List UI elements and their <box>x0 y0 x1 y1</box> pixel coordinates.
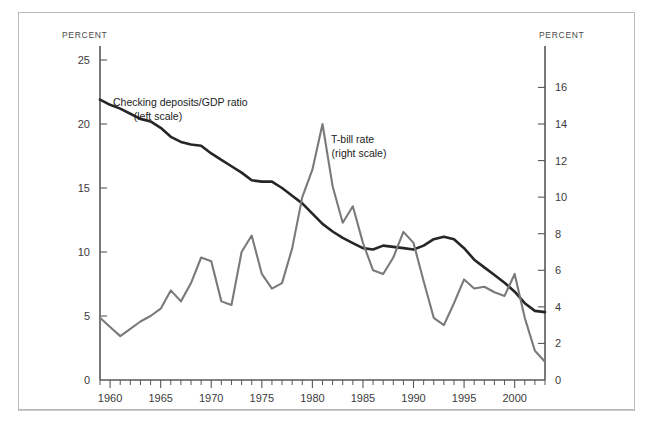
left-axis-tick-label: 20 <box>78 118 90 130</box>
right-axis-tick-label: 0 <box>555 374 561 386</box>
series-line-2 <box>100 124 545 362</box>
line-chart-svg: 0510152025PERCENT 0246810121416PERCENT 1… <box>0 0 653 427</box>
right-axis-tick-label: 16 <box>555 81 567 93</box>
x-axis-tick-label: 1975 <box>250 392 274 404</box>
chart-plot-area: 0510152025PERCENT 0246810121416PERCENT 1… <box>0 0 653 427</box>
tbill-series-annotation: T-bill rate <box>331 133 374 145</box>
tbill-series-scale-note: (right scale) <box>332 147 387 159</box>
deposits-series-annotation: Checking deposits/GDP ratio <box>113 96 248 108</box>
left-axis: 0510152025PERCENT <box>62 30 108 386</box>
x-axis-tick-label: 1980 <box>300 392 324 404</box>
left-axis-tick-label: 15 <box>78 182 90 194</box>
x-axis-tick-label: 2000 <box>502 392 526 404</box>
x-axis: 196019651970197519801985199019952000 <box>98 380 545 404</box>
deposits-series-scale-note: (left scale) <box>134 110 182 122</box>
x-axis-tick-label: 1960 <box>98 392 122 404</box>
right-axis-tick-label: 10 <box>555 191 567 203</box>
series-lines <box>100 100 545 362</box>
chart-page: 0510152025PERCENT 0246810121416PERCENT 1… <box>0 0 653 427</box>
right-axis-tick-label: 6 <box>555 264 561 276</box>
series-annotations: Checking deposits/GDP ratio(left scale)T… <box>113 96 386 159</box>
right-axis-tick-label: 12 <box>555 155 567 167</box>
x-axis-tick-label: 1995 <box>452 392 476 404</box>
x-axis-tick-label: 1985 <box>351 392 375 404</box>
left-axis-tick-label: 0 <box>84 374 90 386</box>
right-axis: 0246810121416PERCENT <box>538 30 585 386</box>
right-axis-title: PERCENT <box>539 30 585 40</box>
x-axis-tick-label: 1970 <box>199 392 223 404</box>
right-axis-tick-label: 14 <box>555 118 567 130</box>
series-line-1 <box>100 100 545 312</box>
right-axis-tick-label: 4 <box>555 301 561 313</box>
right-axis-tick-label: 8 <box>555 228 561 240</box>
left-axis-tick-label: 10 <box>78 246 90 258</box>
right-axis-tick-label: 2 <box>555 337 561 349</box>
left-axis-title: PERCENT <box>62 30 108 40</box>
x-axis-tick-label: 1965 <box>148 392 172 404</box>
left-axis-tick-label: 25 <box>78 54 90 66</box>
x-axis-tick-label: 1990 <box>401 392 425 404</box>
left-axis-tick-label: 5 <box>84 310 90 322</box>
